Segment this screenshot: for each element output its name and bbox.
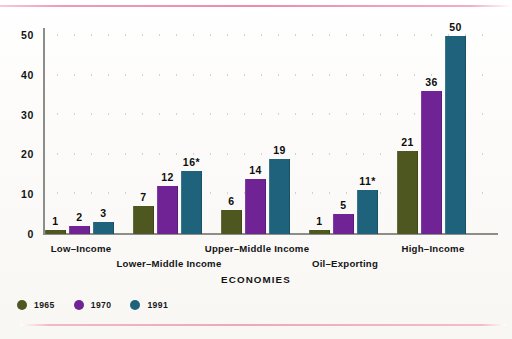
bar-1991-oil-exporting[interactable]: 11* — [357, 28, 378, 234]
bar-value-label: 5 — [340, 199, 346, 211]
y-tick-label-50: 50 — [21, 29, 43, 41]
category-label-upper-middle-income: Upper–Middle Income — [205, 243, 309, 254]
category-label-lower-middle-income: Lower–Middle Income — [117, 258, 222, 269]
bar-1965-high-income[interactable]: 21 — [397, 28, 418, 234]
legend-dot-icon — [17, 300, 27, 310]
legend-dot-icon — [74, 300, 84, 310]
figure-page: 01020304050 12371216*614191511*213650 Lo… — [0, 0, 512, 339]
bar-value-label: 19 — [273, 144, 286, 156]
bar-1965-upper-middle-income[interactable]: 6 — [221, 28, 242, 234]
bar-1965-oil-exporting[interactable]: 1 — [309, 28, 330, 234]
bar-rect[interactable] — [397, 151, 418, 234]
legend-item-label: 1970 — [91, 300, 112, 310]
bar-rect[interactable] — [133, 206, 154, 234]
bar-value-label: 50 — [449, 21, 462, 33]
bar-groups: 12371216*614191511*213650 — [43, 28, 498, 234]
bar-rect[interactable] — [157, 186, 178, 234]
bar-value-label: 21 — [401, 136, 414, 148]
bar-rect[interactable] — [93, 222, 114, 234]
bar-group-oil-exporting: 1511* — [309, 28, 378, 234]
bar-value-label: 36 — [425, 76, 438, 88]
bottom-rule-divider — [20, 324, 506, 326]
bar-value-label: 16* — [183, 156, 200, 168]
bar-rect[interactable] — [445, 36, 466, 234]
y-tick-label-30: 30 — [21, 108, 43, 120]
bar-1970-lower-middle-income[interactable]: 12 — [157, 28, 178, 234]
bar-group-high-income: 213650 — [397, 28, 466, 234]
bar-group-lower-middle-income: 71216* — [133, 28, 202, 234]
bar-group-upper-middle-income: 61419 — [221, 28, 290, 234]
bar-value-label: 2 — [76, 211, 82, 223]
bar-value-label: 7 — [140, 191, 146, 203]
legend-item-1991[interactable]: 1991 — [130, 300, 168, 310]
bar-rect[interactable] — [269, 159, 290, 234]
bar-value-label: 12 — [161, 171, 174, 183]
bar-value-label: 14 — [249, 164, 262, 176]
x-axis-title: ECONOMIES — [0, 274, 512, 285]
legend-item-1970[interactable]: 1970 — [74, 300, 112, 310]
legend: 196519701991 — [17, 300, 168, 310]
bar-value-label: 11* — [359, 175, 376, 187]
bar-1991-upper-middle-income[interactable]: 19 — [269, 28, 290, 234]
bar-1970-low-income[interactable]: 2 — [69, 28, 90, 234]
bar-group-low-income: 123 — [45, 28, 114, 234]
plot-area: 01020304050 12371216*614191511*213650 — [43, 28, 498, 234]
y-tick-label-10: 10 — [21, 187, 43, 199]
bar-value-label: 3 — [100, 207, 106, 219]
legend-item-label: 1991 — [147, 300, 168, 310]
bar-1970-upper-middle-income[interactable]: 14 — [245, 28, 266, 234]
legend-item-1965[interactable]: 1965 — [17, 300, 55, 310]
bar-rect[interactable] — [181, 171, 202, 234]
category-label-high-income: High–Income — [402, 243, 465, 254]
y-tick-label-40: 40 — [21, 69, 43, 81]
y-tick-label-20: 20 — [21, 148, 43, 160]
bar-1965-low-income[interactable]: 1 — [45, 28, 66, 234]
bar-rect[interactable] — [357, 190, 378, 234]
bar-1970-high-income[interactable]: 36 — [421, 28, 442, 234]
y-tick-label-0: 0 — [28, 227, 43, 239]
bar-rect[interactable] — [45, 230, 66, 234]
bar-1991-lower-middle-income[interactable]: 16* — [181, 28, 202, 234]
bar-1965-lower-middle-income[interactable]: 7 — [133, 28, 154, 234]
top-rule-divider — [0, 5, 512, 7]
bar-1970-oil-exporting[interactable]: 5 — [333, 28, 354, 234]
bar-1991-low-income[interactable]: 3 — [93, 28, 114, 234]
bar-value-label: 1 — [316, 215, 322, 227]
bar-value-label: 6 — [228, 195, 234, 207]
bar-rect[interactable] — [309, 230, 330, 234]
bar-rect[interactable] — [245, 179, 266, 234]
bar-rect[interactable] — [221, 210, 242, 234]
legend-item-label: 1965 — [34, 300, 55, 310]
bar-value-label: 1 — [52, 215, 58, 227]
category-label-low-income: Low–Income — [51, 243, 112, 254]
bar-rect[interactable] — [333, 214, 354, 234]
bar-rect[interactable] — [69, 226, 90, 234]
bar-rect[interactable] — [421, 91, 442, 234]
category-label-oil-exporting: Oil–Exporting — [312, 258, 378, 269]
bar-1991-high-income[interactable]: 50 — [445, 28, 466, 234]
legend-dot-icon — [130, 300, 140, 310]
